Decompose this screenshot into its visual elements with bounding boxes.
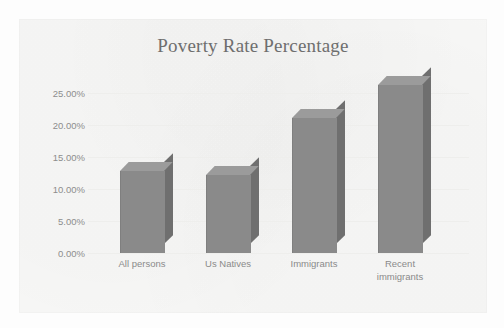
x-axis-category-label: Recentimmigrants [352,257,448,283]
chart-title: Poverty Rate Percentage [19,35,487,57]
gridline [88,253,469,254]
y-axis-tick-label: 5.00% [33,216,85,227]
chart-canvas: Poverty Rate Percentage 0.00% 5.00% 10.0… [19,19,487,313]
bar-side-face [336,100,345,244]
x-axis-category-label-line: Recent [352,257,448,270]
y-axis-tick-label: 25.00% [33,88,85,99]
bar-top-face [378,76,431,85]
x-axis: All persons Us Natives Immigrants Recent… [88,257,469,307]
y-axis-tick-label: 0.00% [33,248,85,259]
y-axis-tick-label: 20.00% [33,120,85,131]
bar-top-face [120,162,173,171]
bar-top-face [292,109,345,118]
bar-front-face [378,85,423,253]
y-axis-tick-label: 15.00% [33,152,85,163]
bar-column[interactable] [378,76,422,253]
x-axis-category-label: All persons [94,257,190,270]
bar-column[interactable] [206,166,250,253]
bar-front-face [206,175,251,253]
screenshot-root: Poverty Rate Percentage 0.00% 5.00% 10.0… [0,0,504,328]
x-axis-category-label-line: Us Natives [180,257,276,270]
y-axis: 0.00% 5.00% 10.00% 15.00% 20.00% 25.00% [29,73,85,253]
bar-column[interactable] [120,162,164,253]
x-axis-category-label-line: Immigrants [266,257,362,270]
bar-top-face [206,166,259,175]
bar-column[interactable] [292,109,336,253]
plot-area [88,73,469,253]
bar-front-face [292,118,337,253]
x-axis-category-label-line: All persons [94,257,190,270]
x-axis-category-label: Us Natives [180,257,276,270]
bar-front-face [120,171,165,253]
x-axis-category-label: Immigrants [266,257,362,270]
x-axis-category-label-line: immigrants [352,270,448,283]
bar-side-face [422,67,431,244]
y-axis-tick-label: 10.00% [33,184,85,195]
